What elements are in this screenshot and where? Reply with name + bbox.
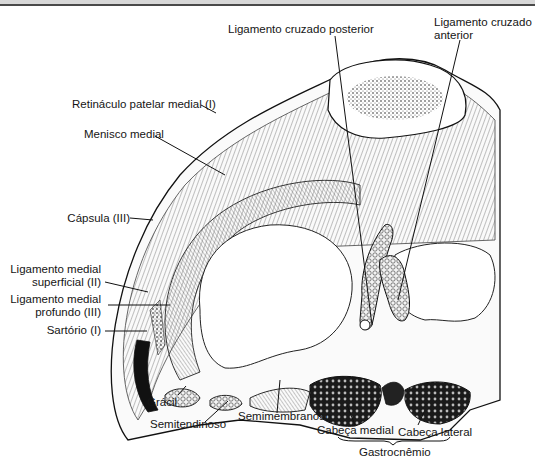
label-gastrocnemius-lateral-head: Cabeça lateral <box>398 426 472 439</box>
label-posterior-cruciate-ligament: Ligamento cruzado posterior <box>228 23 374 36</box>
label-superficial-mcl-line2: superficial (II) <box>0 276 101 289</box>
label-gastrocnemius: Gastrocnêmio <box>359 446 431 459</box>
knee-cross-section-illustration <box>0 0 535 473</box>
label-deep-mcl-line2: profundo (III) <box>0 306 101 319</box>
label-medial-patellar-retinaculum: Retináculo patelar medial (I) <box>72 98 216 111</box>
label-gastrocnemius-medial-head: Cabeça medial <box>317 424 394 437</box>
label-anterior-cruciate-ligament-line2: anterior <box>434 29 473 42</box>
label-semitendinosus: Semitendinoso <box>150 418 226 431</box>
label-medial-meniscus: Menisco medial <box>84 128 164 141</box>
patella-cancellous-bone <box>347 76 443 120</box>
label-sartorius: Sartório (I) <box>0 324 101 337</box>
label-superficial-mcl-line1: Ligamento medial <box>0 263 101 276</box>
label-deep-mcl-line1: Ligamento medial <box>0 293 101 306</box>
pcl-tendon-end <box>360 320 370 330</box>
label-anterior-cruciate-ligament-line1: Ligamento cruzado <box>434 16 532 29</box>
label-capsule: Cápsula (III) <box>60 212 130 225</box>
label-gracilis: Grácil <box>147 396 177 409</box>
label-semimembranosus: Semimembranoso <box>238 410 331 423</box>
